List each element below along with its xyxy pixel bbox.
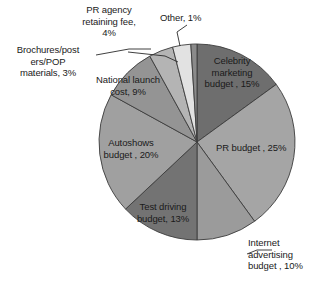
slice-label-national-launch-cost: National launch cost, 9% [88, 74, 168, 97]
pie-chart: PR agency retaining fee, 4% Other, 1% Br… [0, 0, 324, 289]
slice-label-pr-budget: PR budget , 25% [216, 142, 310, 154]
slice-label-test-driving-budget: Test driving budget, 13% [124, 201, 202, 224]
slice-label-autoshows-budget: Autoshows budget , 20% [92, 137, 170, 160]
slice-label-other: Other, 1% [160, 12, 222, 24]
slice-label-pr-agency-retaining-fee: PR agency retaining fee, 4% [66, 4, 152, 39]
slice-label-celebrity-marketing-budget: Celebrity marketing budget , 15% [196, 55, 268, 90]
slice-label-brochures-posters-pop-materials: Brochures/post ers/POP materials, 3% [2, 44, 94, 79]
leader-line-brochures [96, 49, 151, 55]
leader-line-other [177, 25, 187, 46]
slice-label-internet-advertising-budget: Internet advertising budget , 10% [248, 237, 324, 272]
